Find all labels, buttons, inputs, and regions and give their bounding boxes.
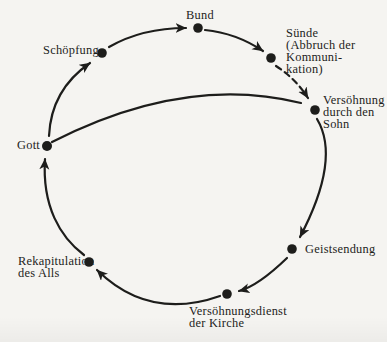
edge-rekapitulation-to-gott: [45, 159, 84, 255]
edge-versoehnung-to-geistsendung: [300, 119, 326, 237]
edge-geistsendung-to-versoehnungsdienst: [239, 258, 287, 291]
versoehnungsdienst-label-line2: der Kirche: [189, 317, 287, 329]
versoehnungsdienst-node-dot: [222, 289, 232, 299]
edge-versoehnungsdienst-to-rekapitulation: [97, 270, 220, 304]
geistsendung-label: Geistsendung: [305, 243, 375, 255]
suende-node-dot: [266, 53, 276, 63]
edge-gott-to-versoehnung-chord: [52, 94, 301, 142]
suende-label-line4: kation): [286, 63, 355, 75]
bund-node-dot: [193, 23, 203, 33]
gott-label: Gott: [17, 139, 40, 151]
rekapitulation-label: Rekapitulation des Alls: [18, 255, 94, 279]
schoepfung-label: Schöpfung: [43, 44, 99, 56]
versoehnungsdienst-label: Versöhnungsdienst der Kirche: [189, 305, 287, 329]
geistsendung-node-dot: [287, 244, 297, 254]
edge-bund-to-suende: [205, 30, 263, 51]
versoehnung-sohn-label: Versöhnung durch den Sohn: [323, 94, 385, 130]
diagram: Gott Schöpfung Bund Sünde (Abbruch der K…: [0, 0, 387, 342]
rekapitulation-label-line2: des Alls: [18, 267, 94, 279]
edge-schoepfung-to-bund: [109, 28, 186, 47]
bund-label: Bund: [186, 9, 214, 21]
gott-node-dot: [42, 141, 52, 151]
suende-label: Sünde (Abbruch der Kommuni- kation): [286, 27, 355, 75]
edge-gott-to-schoepfung: [49, 63, 90, 136]
versoehnung-sohn-label-line3: Sohn: [323, 118, 385, 130]
versoehnung-sohn-node-dot: [310, 105, 320, 115]
